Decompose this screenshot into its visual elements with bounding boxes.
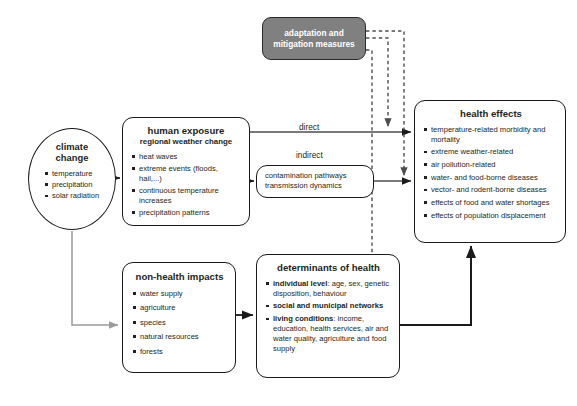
node-contamination-pathways[interactable]: contamination pathways transmission dyna…: [256, 165, 374, 198]
list-item: water supply: [133, 289, 226, 299]
list-item: continuous temperature increases: [132, 186, 240, 206]
non-health-title: non-health impacts: [133, 271, 226, 283]
list-item: agriculture: [133, 303, 226, 313]
health-effects-title: health effects: [424, 108, 558, 120]
determinants-title: determinants of health: [266, 262, 391, 274]
node-climate-change[interactable]: climate change temperature precipitation…: [28, 128, 116, 230]
list-item: precipitation: [45, 180, 115, 190]
diagram-canvas: climate change temperature precipitation…: [0, 0, 577, 406]
node-human-exposure[interactable]: human exposure regional weather change h…: [122, 117, 250, 226]
list-item: social and municipal networks: [266, 301, 391, 311]
contamination-line-2: transmission dynamics: [265, 181, 366, 191]
item-lead: social and municipal networks: [273, 301, 383, 310]
list-item: natural resources: [133, 332, 226, 342]
human-exposure-items: heat waves extreme events (floods, hail,…: [132, 152, 240, 218]
list-item: extreme weather-related: [424, 147, 558, 157]
list-item: vector- and rodent-borne diseases: [424, 185, 558, 195]
list-item: individual level: age, sex, genetic disp…: [266, 279, 391, 299]
list-item: forests: [133, 347, 226, 357]
item-lead: individual level: [273, 279, 327, 288]
node-determinants-of-health[interactable]: determinants of health individual level:…: [256, 254, 400, 378]
edge-climate-to-nonhealth: [72, 231, 118, 325]
list-item: temperature: [45, 169, 115, 179]
list-item: living conditions: income, education, he…: [266, 314, 391, 354]
determinants-items: individual level: age, sex, genetic disp…: [266, 279, 391, 354]
adaptation-title: adaptation and mitigation measures: [273, 28, 354, 50]
contamination-line-1: contamination pathways: [265, 171, 366, 181]
edge-label-direct: direct: [299, 122, 319, 132]
climate-change-items: temperature precipitation solar radiatio…: [45, 169, 115, 201]
climate-change-title: climate change: [29, 141, 115, 164]
node-non-health-impacts[interactable]: non-health impacts water supply agricult…: [122, 262, 236, 373]
list-item: temperature-related morbidity and mortal…: [424, 125, 558, 145]
non-health-items: water supply agriculture species natural…: [133, 289, 226, 357]
item-lead: living conditions: [273, 314, 333, 323]
list-item: heat waves: [132, 152, 240, 162]
list-item: water- and food-borne diseases: [424, 173, 558, 183]
edge-adaptation-to-direct: [366, 38, 388, 126]
list-item: effects of population displacement: [424, 211, 558, 221]
edge-label-indirect: indirect: [296, 150, 323, 160]
list-item: solar radiation: [45, 191, 115, 201]
list-item: extreme events (floods, hail,...): [132, 164, 240, 184]
human-exposure-title: human exposure: [132, 125, 240, 137]
list-item: air pollution-related: [424, 160, 558, 170]
list-item: effects of food and water shortages: [424, 198, 558, 208]
list-item: species: [133, 318, 226, 328]
node-adaptation-mitigation[interactable]: adaptation and mitigation measures: [262, 17, 366, 60]
node-health-effects[interactable]: health effects temperature-related morbi…: [414, 100, 566, 243]
list-item: precipitation patterns: [132, 208, 240, 218]
health-effects-items: temperature-related morbidity and mortal…: [424, 125, 558, 221]
human-exposure-subtitle: regional weather change: [132, 137, 240, 147]
